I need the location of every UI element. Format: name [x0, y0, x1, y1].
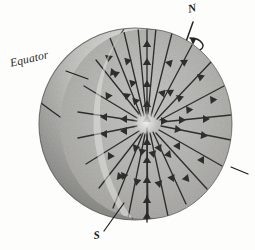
right-leader-line: [231, 167, 248, 174]
diagram-canvas: [0, 0, 255, 250]
field-convergence-core: [133, 110, 159, 136]
south-pole-label: S: [93, 229, 100, 241]
figure-sphere-field-diagram: Equator N S: [0, 0, 255, 250]
sphere-cutaway: [60, 28, 232, 220]
